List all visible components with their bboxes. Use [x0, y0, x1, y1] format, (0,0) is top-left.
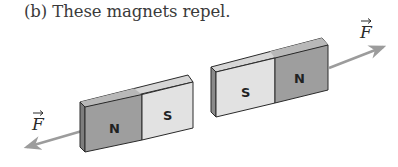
svg-text:F: F: [31, 114, 45, 134]
left-magnet-n-label: N: [109, 121, 120, 136]
figure: (b) These magnets repel. F N S: [0, 0, 398, 167]
left-magnet-s-label: S: [163, 108, 172, 123]
right-magnet: S N: [211, 38, 328, 117]
right-force-label: F: [359, 19, 373, 43]
magnets-diagram: F N S S N: [0, 0, 398, 167]
svg-text:F: F: [359, 22, 373, 42]
left-force-label: F: [31, 111, 45, 135]
right-magnet-s-label: S: [241, 85, 250, 100]
right-force-arrow: [329, 47, 383, 68]
right-magnet-n-label: N: [294, 71, 305, 86]
left-magnet: N S: [80, 75, 193, 152]
